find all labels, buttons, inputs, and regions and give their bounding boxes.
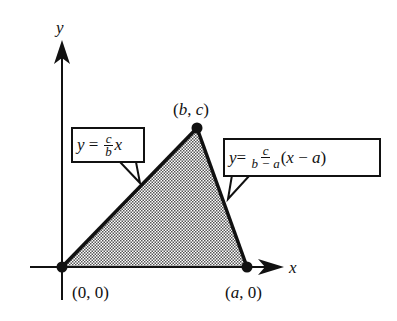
right-close: ): [320, 148, 326, 168]
left-lhs: y: [77, 135, 85, 155]
callout-right-equation: y = c b − a (x − a): [223, 138, 381, 177]
callout-left-pointer: [120, 162, 140, 183]
a-rest: , 0): [239, 283, 262, 302]
y-axis-label: y: [56, 18, 64, 38]
callout-right-pointer: [228, 175, 250, 199]
origin-label: (0, 0): [72, 283, 109, 303]
x-axis-label: x: [289, 258, 297, 278]
left-fraction: c b: [104, 133, 114, 158]
left-den: b: [105, 146, 112, 158]
apex-label: (b, c): [173, 100, 209, 120]
apex-sep: ,: [187, 100, 196, 119]
right-x: x: [286, 148, 294, 168]
apex-close: ): [203, 100, 209, 119]
point-apex: [192, 123, 203, 134]
right-eq: =: [237, 148, 251, 168]
apex-b: b: [179, 100, 188, 119]
point-origin: [57, 262, 68, 273]
right-minus: −: [294, 148, 312, 168]
left-tail: x: [114, 135, 122, 155]
a-point-label: (a, 0): [225, 283, 262, 303]
callout-left-equation: y = c b x: [71, 127, 145, 163]
right-a: a: [312, 148, 321, 168]
right-den: b − a: [251, 158, 279, 170]
right-fraction: c b − a: [251, 145, 279, 170]
right-lhs: y: [229, 148, 237, 168]
a-var: a: [231, 283, 240, 302]
left-eq: =: [85, 135, 103, 155]
point-a: [242, 262, 253, 273]
